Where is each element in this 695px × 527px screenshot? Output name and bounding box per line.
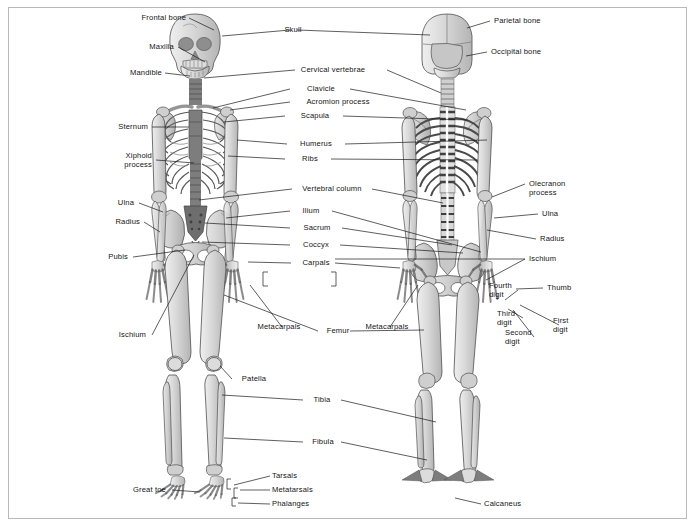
- skeleton-figure: Frontal bone Maxilla Mandible Sternum Xi…: [0, 0, 695, 527]
- label-radius-left: Radius: [30, 217, 140, 226]
- label-radius-right: Radius: [540, 234, 580, 243]
- label-parietal-bone: Parietal bone: [494, 16, 574, 25]
- label-skull: Skull: [262, 25, 324, 34]
- label-fourth-digit: Fourth digit: [489, 281, 527, 300]
- label-third-digit: Third digit: [497, 309, 529, 328]
- label-occipital-bone: Occipital bone: [491, 47, 575, 56]
- label-metacarpals-left: Metacarpals: [248, 322, 310, 331]
- label-ulna-right: Ulna: [542, 209, 574, 218]
- anterior-skeleton-group: [147, 14, 244, 499]
- label-sacrum: Sacrum: [296, 223, 338, 232]
- label-phalanges: Phalanges: [272, 499, 334, 508]
- label-calcaneus: Calcaneus: [484, 499, 548, 508]
- label-maxilla: Maxilla: [48, 42, 174, 51]
- label-ribs: Ribs: [294, 154, 326, 163]
- label-humerus: Humerus: [292, 139, 340, 148]
- label-first-digit: First digit: [553, 316, 585, 335]
- label-tarsals: Tarsals: [272, 471, 326, 480]
- label-scapula: Scapula: [292, 111, 338, 120]
- label-xiphoid-process: Xiphoid process: [30, 151, 152, 170]
- skeleton-artwork: [0, 0, 695, 527]
- label-ischium-right: Ischium: [529, 254, 573, 263]
- label-coccyx: Coccyx: [296, 240, 336, 249]
- label-pubis: Pubis: [30, 252, 128, 261]
- label-patella: Patella: [234, 374, 274, 383]
- label-vertebral-column: Vertebral column: [296, 184, 368, 193]
- label-ulna-left: Ulna: [30, 198, 134, 207]
- label-metacarpals-right: Metacarpals: [356, 322, 418, 331]
- label-ilium: Ilium: [296, 206, 326, 215]
- label-olecranon-process: Olecranon process: [529, 179, 589, 198]
- label-femur: Femur: [320, 326, 356, 335]
- label-great-toe: Great toe: [74, 485, 166, 494]
- label-frontal-bone: Frontal bone: [48, 13, 186, 22]
- label-sternum: Sternum: [30, 122, 148, 131]
- label-second-digit: Second digit: [505, 328, 547, 347]
- label-metatarsals: Metatarsals: [272, 485, 344, 494]
- label-clavicle: Clavicle: [297, 84, 345, 93]
- label-carpals: Carpals: [296, 258, 336, 267]
- label-cervical-vertebrae: Cervical vertebrae: [283, 65, 383, 74]
- label-acromion-process: Acromion process: [293, 97, 383, 106]
- posterior-skeleton-group: [398, 14, 498, 483]
- label-fibula: Fibula: [306, 437, 340, 446]
- label-tibia: Tibia: [306, 395, 338, 404]
- label-thumb: Thumb: [547, 283, 587, 292]
- label-ischium-left: Ischium: [30, 330, 146, 339]
- label-mandible: Mandible: [38, 68, 162, 77]
